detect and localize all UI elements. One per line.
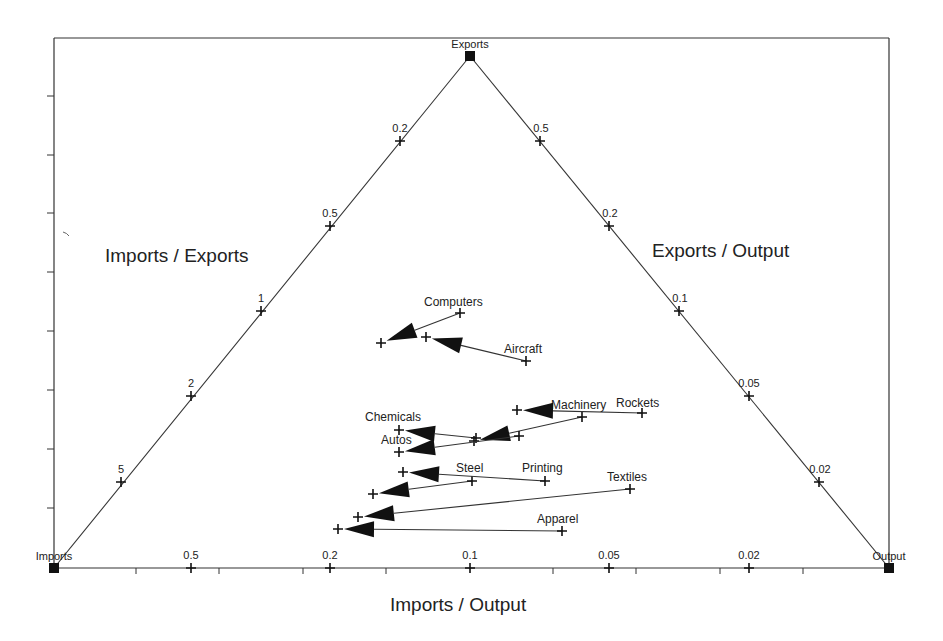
- plus-marker-icon: [398, 467, 408, 477]
- axis-label-imports-exports: Imports / Exports: [105, 245, 249, 267]
- edge-tick-labels: 5 2 1 0.5 0.2 0.5 0.2 0.1 0.05 0.02 0.5 …: [118, 122, 831, 561]
- right-tick-label: 0.1: [672, 292, 687, 304]
- arrowhead-icon: [409, 466, 439, 482]
- plus-marker-icon: [521, 356, 531, 366]
- left-tick-label: 2: [188, 377, 194, 389]
- industry-label: Textiles: [607, 470, 647, 484]
- edge-tick-markers: [116, 136, 824, 573]
- bottom-tick-label: 0.2: [322, 549, 337, 561]
- vertex-output-label: Output: [872, 550, 905, 562]
- plus-marker-icon: [512, 405, 522, 415]
- plus-marker-icon: [368, 489, 378, 499]
- plus-marker-icon: [540, 476, 550, 486]
- industry-label: Chemicals: [365, 410, 421, 424]
- industry-aircraft: Aircraft: [421, 332, 543, 366]
- ternary-chart: Exports Imports Output 5 2 1 0.5 0.2 0.5…: [0, 0, 943, 641]
- right-tick-label: 0.5: [533, 122, 548, 134]
- bottom-tick-label: 0.02: [738, 549, 759, 561]
- industry-label: Autos: [381, 433, 412, 447]
- plus-marker-icon: [514, 431, 524, 441]
- bottom-tick-label: 0.5: [183, 549, 198, 561]
- plus-marker-icon: [455, 308, 465, 318]
- industry-computers: Computers: [376, 295, 483, 348]
- plus-marker-icon: [467, 476, 477, 486]
- vertex-exports-marker: [465, 51, 475, 61]
- vertex-imports-label: Imports: [36, 550, 73, 562]
- triangle-edges: [54, 56, 889, 568]
- industry-label: Aircraft: [504, 342, 543, 356]
- bottom-tick-label: 0.1: [462, 549, 477, 561]
- vertex-output-marker: [884, 563, 894, 573]
- industry-steel: Steel: [368, 461, 483, 499]
- arrowhead-icon: [432, 338, 463, 354]
- axis-label-exports-output: Exports / Output: [652, 240, 789, 262]
- right-tick-label: 0.05: [738, 377, 759, 389]
- plus-marker-icon: [394, 447, 404, 457]
- arrowhead-icon: [523, 403, 553, 419]
- left-tick-label: 5: [118, 463, 124, 475]
- arrowhead-icon: [387, 323, 418, 341]
- left-tick-label: 1: [258, 292, 264, 304]
- industry-label: Rockets: [616, 396, 659, 410]
- plus-marker-icon: [421, 332, 431, 342]
- industry-label: Computers: [424, 295, 483, 309]
- industry-machinery: Machinery: [469, 398, 606, 446]
- plus-marker-icon: [333, 524, 343, 534]
- industry-label: Printing: [522, 461, 563, 475]
- industry-trajectories: ComputersAircraftMachineryRocketsChemica…: [333, 295, 659, 537]
- left-tick-label: 0.5: [322, 207, 337, 219]
- left-tick-label: 0.2: [392, 122, 407, 134]
- arrowhead-icon: [364, 505, 395, 521]
- industry-label: Apparel: [537, 512, 578, 526]
- axis-label-imports-output: Imports / Output: [390, 594, 526, 616]
- plus-marker-icon: [625, 484, 635, 494]
- bottom-tick-label: 0.05: [598, 549, 619, 561]
- plus-marker-icon: [376, 338, 386, 348]
- arrowhead-icon: [344, 521, 374, 537]
- industry-label: Machinery: [551, 398, 606, 412]
- vertex-imports-marker: [49, 563, 59, 573]
- vertex-exports-label: Exports: [451, 38, 489, 50]
- right-tick-label: 0.2: [602, 207, 617, 219]
- arrowhead-icon: [379, 481, 410, 497]
- right-tick-label: 0.02: [809, 463, 830, 475]
- industry-label: Steel: [456, 461, 483, 475]
- plus-marker-icon: [557, 526, 567, 536]
- plus-marker-icon: [353, 512, 363, 522]
- plus-marker-icon: [577, 412, 587, 422]
- stray-mark: [63, 232, 69, 236]
- left-axis-ticks: [47, 96, 54, 508]
